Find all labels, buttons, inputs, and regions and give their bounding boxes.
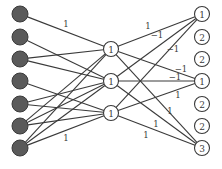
edge-h2-o7 (117, 85, 196, 143)
input-node (12, 6, 28, 22)
hidden-node-label: 1 (108, 109, 114, 119)
edge-i6-h3 (28, 114, 104, 125)
edge-h3-o4 (118, 83, 195, 110)
output-node: 3 (195, 141, 210, 156)
edge-weight-label: 1 (63, 19, 68, 29)
input-node (12, 29, 28, 45)
neural-network-diagram: 111−1−1−1−11111 1111221223 (0, 0, 222, 169)
input-node (12, 73, 28, 89)
output-node-label: 1 (199, 77, 205, 87)
edge-weight-label: −1 (151, 30, 164, 40)
edge-weight-label: 1 (63, 133, 68, 143)
output-node: 2 (195, 30, 210, 45)
output-node: 1 (195, 7, 210, 22)
hidden-node-label: 1 (108, 77, 114, 87)
output-node: 1 (195, 74, 210, 89)
input-node (12, 51, 28, 67)
output-node: 2 (195, 52, 210, 67)
hidden-node: 1 (104, 42, 119, 57)
edge-i7-h1 (25, 55, 106, 143)
edge-i2-h2 (27, 40, 104, 77)
edge-weight-label: 1 (143, 130, 148, 140)
edge-weight-label: 1 (153, 119, 158, 129)
edge-weight-label: −1 (167, 44, 180, 54)
input-node (12, 96, 28, 112)
hidden-node: 1 (104, 74, 119, 89)
output-node-label: 1 (199, 10, 205, 20)
output-node-label: 2 (199, 122, 205, 132)
input-node (12, 118, 28, 134)
hidden-node: 1 (104, 106, 119, 121)
hidden-node-label: 1 (108, 45, 114, 55)
edge-i3-h1 (28, 50, 104, 58)
edge-weight-label: −1 (169, 72, 182, 82)
edge-i6-h2 (27, 84, 104, 122)
output-node: 2 (195, 119, 210, 134)
output-node-label: 2 (199, 100, 205, 110)
output-node-label: 2 (199, 55, 205, 65)
output-node-label: 3 (199, 144, 205, 154)
edge-i5-h2 (28, 83, 104, 102)
output-node-label: 2 (199, 33, 205, 43)
input-node (12, 140, 28, 156)
edge-weight-label: 1 (167, 106, 172, 116)
edge-weight-label: 1 (175, 90, 180, 100)
output-node: 2 (195, 97, 210, 112)
